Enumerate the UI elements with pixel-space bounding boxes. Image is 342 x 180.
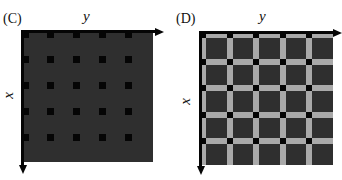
y-axis-line-d — [199, 31, 335, 34]
grid-band-vertical — [280, 32, 286, 165]
x-axis-line-d — [199, 31, 202, 167]
grid-intersection — [306, 59, 312, 65]
x-axis-line-c — [21, 30, 24, 166]
grid-intersection — [280, 112, 286, 118]
grid-intersection — [253, 59, 259, 65]
x-axis-label-d: x — [178, 98, 193, 105]
y-axis-arrow-icon-c — [155, 28, 164, 36]
lattice-mark — [99, 56, 106, 63]
lattice-mark — [125, 82, 132, 89]
grid-square-d — [200, 32, 333, 165]
grid-intersection — [306, 138, 312, 144]
lattice-mark — [73, 82, 80, 89]
grid-intersection — [253, 85, 259, 91]
lattice-mark — [99, 108, 106, 115]
lattice-mark — [47, 134, 54, 141]
lattice-mark — [47, 56, 54, 63]
lattice-mark — [99, 82, 106, 89]
x-axis-label-c: x — [1, 92, 16, 99]
grid-intersection — [253, 112, 259, 118]
grid-intersection — [280, 59, 286, 65]
lattice-mark — [125, 56, 132, 63]
lattice-mark — [47, 82, 54, 89]
grid-intersection — [227, 112, 233, 118]
grid-intersection — [280, 138, 286, 144]
lattice-mark — [125, 134, 132, 141]
grid-band-horizontal — [200, 59, 333, 65]
panel-label-c: (C) — [3, 12, 22, 26]
lattice-mark — [47, 108, 54, 115]
lattice-mark — [73, 134, 80, 141]
grid-intersection — [280, 85, 286, 91]
grid-band-horizontal — [200, 85, 333, 91]
grid-band-horizontal — [200, 112, 333, 118]
y-axis-label-d: y — [259, 9, 266, 24]
y-axis-line-c — [22, 30, 156, 33]
y-axis-label-c: y — [83, 9, 90, 24]
grid-band-vertical — [227, 32, 233, 165]
x-axis-arrow-icon-d — [197, 166, 205, 175]
grid-band-vertical — [306, 32, 312, 165]
grid-intersection — [306, 112, 312, 118]
lattice-mark — [125, 108, 132, 115]
grid-band-horizontal — [200, 138, 333, 144]
lattice-square-c — [22, 31, 153, 162]
x-axis-arrow-icon-c — [19, 165, 27, 174]
grid-band-vertical — [253, 32, 259, 165]
y-axis-arrow-icon-d — [333, 29, 342, 37]
grid-intersection — [253, 138, 259, 144]
grid-intersection — [227, 59, 233, 65]
grid-intersection — [227, 85, 233, 91]
grid-intersection — [306, 85, 312, 91]
panel-label-d: (D) — [176, 12, 195, 26]
lattice-mark — [73, 56, 80, 63]
lattice-mark — [73, 108, 80, 115]
lattice-mark — [99, 134, 106, 141]
grid-intersection — [227, 138, 233, 144]
